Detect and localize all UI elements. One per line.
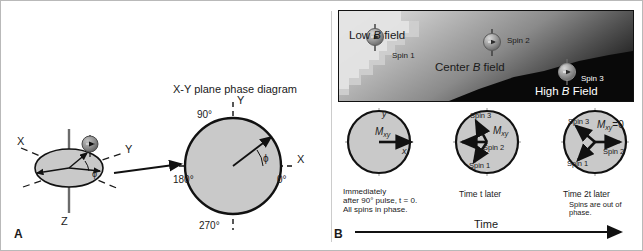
- t-spin3-label: Spin 3: [470, 111, 491, 120]
- t-spin2-label: Spin 2: [483, 143, 504, 152]
- panel-label-b: B: [334, 227, 343, 241]
- phi-label: ϕ: [263, 153, 269, 164]
- 2t-spin2-label: Spin 2: [603, 147, 624, 156]
- phase-axis-y-label: Y: [237, 94, 245, 106]
- t0-caption-line-1: Immediately: [343, 187, 386, 196]
- spin-3-label: Spin 3: [581, 74, 604, 83]
- t0-caption-line-2: after 90° pulse, t = 0.: [343, 196, 417, 205]
- 2t-spin3-label: Spin 3: [568, 117, 589, 126]
- phase-axis-x-label: X: [297, 153, 305, 165]
- b-field-map-graphics: Low B field Spin 1 Center B field Spin 2…: [339, 11, 633, 101]
- axis-y-label: Y: [125, 143, 133, 155]
- angle-0-label: 0°: [277, 174, 287, 185]
- angle-270-label: 270°: [199, 220, 220, 231]
- phase-diagram-2t: Spin 3 Spin 2 Spin 1 Mxy=0 Time 2t later…: [561, 108, 629, 217]
- 2t-spin1-label: Spin 1: [567, 159, 588, 168]
- panel-label-a: A: [14, 227, 23, 241]
- phi-label-3d: ϕ: [92, 169, 97, 179]
- axis-z-label: Z: [61, 215, 68, 227]
- t0-axis-x-label: x: [401, 146, 407, 156]
- phase-diagram-t0: y x Mxy Immediately after 90° pulse, t =…: [343, 108, 417, 214]
- spin-2-label: Spin 2: [507, 36, 530, 45]
- angle-180-label: 180°: [173, 174, 194, 185]
- t-caption-line-1: Time t later: [459, 189, 501, 199]
- high-b-field-label: High B Field: [535, 85, 598, 97]
- spin-1-label: Spin 1: [392, 51, 415, 60]
- figure-frame: Z X Y ϕ X-Y plane phase diagram: [0, 0, 643, 251]
- panel-a-title: X-Y plane phase diagram: [173, 83, 297, 95]
- t0-caption-line-3: All spins in phase.: [343, 205, 407, 214]
- panel-b-diagrams: y x Mxy Immediately after 90° pulse, t =…: [331, 102, 643, 251]
- angle-90-label: 90°: [197, 109, 212, 120]
- t0-axis-y-label: y: [381, 109, 387, 119]
- panel-a-graphics: Z X Y ϕ X-Y plane phase diagram: [1, 1, 331, 251]
- b-field-map: Low B field Spin 1 Center B field Spin 2…: [338, 10, 634, 102]
- 2t-caption-line-1: Time 2t later: [563, 189, 610, 199]
- t-spin1-label: Spin 1: [469, 161, 490, 170]
- 2t-caption-line-3: phase.: [569, 208, 592, 217]
- center-b-field-label: Center B field: [435, 61, 505, 73]
- transition-arrow: [114, 164, 181, 173]
- axis-x-label: X: [17, 135, 25, 147]
- time-axis-label: Time: [474, 218, 498, 230]
- phase-diagram-t: Spin 3 Spin 2 Spin 1 Mxy Time t later: [453, 108, 521, 199]
- low-b-field-label: Low B field: [349, 29, 405, 41]
